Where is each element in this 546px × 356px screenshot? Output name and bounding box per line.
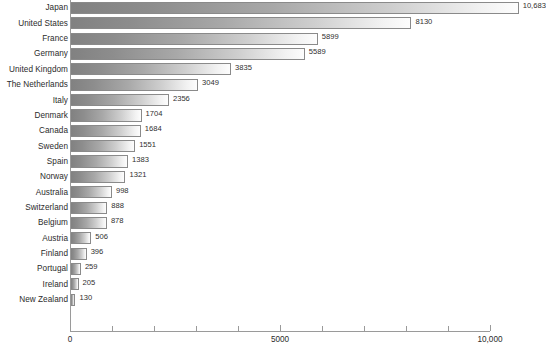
bar-value-label: 259 (81, 261, 98, 273)
bar-row: Sweden1551 (0, 139, 505, 154)
bar-value-label: 3049 (198, 77, 219, 89)
bar[interactable] (70, 186, 112, 198)
bar-value-label: 1704 (142, 108, 163, 120)
bar-value-label: 396 (87, 246, 104, 258)
bar-value-label: 5899 (318, 31, 339, 43)
bar[interactable] (70, 33, 318, 45)
bar-row: Japan10,683 (0, 0, 505, 15)
bar-row: United Kingdom3835 (0, 62, 505, 77)
category-label: Germany (34, 46, 68, 61)
category-label: Switzerland (25, 200, 68, 215)
bar-value-label: 506 (91, 231, 108, 243)
bar-wrapper (70, 202, 107, 214)
category-label: Australia (36, 185, 68, 200)
x-axis-minor-tick (406, 326, 407, 331)
bar[interactable] (70, 94, 169, 106)
bar-wrapper (70, 171, 125, 183)
bar-wrapper (70, 63, 231, 75)
category-label: Spain (47, 154, 68, 169)
x-axis-major-tick (70, 325, 71, 331)
bar[interactable] (70, 278, 79, 290)
bar-wrapper (70, 217, 107, 229)
category-label: France (42, 31, 68, 46)
bar-row: Portugal259 (0, 261, 505, 276)
bar-value-label: 888 (107, 200, 124, 212)
bar-wrapper (70, 278, 79, 290)
bar-wrapper (70, 232, 91, 244)
bar[interactable] (70, 248, 87, 260)
bar-row: Belgium878 (0, 215, 505, 230)
bar-wrapper (70, 33, 318, 45)
category-label: Austria (42, 231, 68, 246)
x-axis-major-tick (490, 325, 491, 331)
category-label: Norway (40, 169, 68, 184)
x-axis-tick-label: 0 (68, 335, 73, 344)
x-axis-line (70, 331, 490, 332)
bar[interactable] (70, 109, 142, 121)
bar-value-label: 1684 (141, 123, 162, 135)
bar-value-label: 205 (79, 277, 96, 289)
x-axis-minor-tick (364, 326, 365, 331)
bar-row: Switzerland888 (0, 200, 505, 215)
bar-row: Germany5589 (0, 46, 505, 61)
category-label: Italy (53, 93, 68, 108)
bar-row: Canada1684 (0, 123, 505, 138)
x-axis-minor-tick (322, 326, 323, 331)
bar[interactable] (70, 140, 135, 152)
bar-value-label: 3835 (231, 62, 252, 74)
bar-value-label: 878 (107, 215, 124, 227)
bar-row: Finland396 (0, 246, 505, 261)
bar[interactable] (70, 155, 128, 167)
bar-row: Austria506 (0, 231, 505, 246)
bar[interactable] (70, 2, 519, 14)
bar[interactable] (70, 202, 107, 214)
bar-row: Norway1321 (0, 169, 505, 184)
x-axis-tick-label: 10,000 (477, 335, 502, 344)
bar-value-label: 998 (112, 185, 129, 197)
category-label: Denmark (34, 108, 68, 123)
bar-value-label: 1321 (125, 169, 146, 181)
bar-row: The Netherlands3049 (0, 77, 505, 92)
bar-row: Ireland205 (0, 277, 505, 292)
bar-wrapper (70, 2, 519, 14)
bar-wrapper (70, 109, 142, 121)
category-label: The Netherlands (7, 77, 68, 92)
x-axis-major-tick (280, 325, 281, 331)
bar-wrapper (70, 140, 135, 152)
bar[interactable] (70, 125, 141, 137)
bar-value-label: 2356 (169, 93, 190, 105)
bar-wrapper (70, 263, 81, 275)
bar[interactable] (70, 48, 305, 60)
category-label: United Kingdom (9, 62, 68, 77)
bar-value-label: 1383 (128, 154, 149, 166)
category-label: Japan (45, 0, 68, 15)
bar[interactable] (70, 79, 198, 91)
category-label: New Zealand (19, 292, 68, 307)
bar-wrapper (70, 79, 198, 91)
bar-wrapper (70, 48, 305, 60)
x-axis-minor-tick (154, 326, 155, 331)
bar-wrapper (70, 155, 128, 167)
y-axis-line (70, 0, 71, 331)
bar[interactable] (70, 171, 125, 183)
bar[interactable] (70, 63, 231, 75)
bar-row: Spain1383 (0, 154, 505, 169)
bar[interactable] (70, 232, 91, 244)
bar-row: France5899 (0, 31, 505, 46)
x-axis-minor-tick (448, 326, 449, 331)
bar-row: Denmark1704 (0, 108, 505, 123)
x-axis-minor-tick (238, 326, 239, 331)
bar-value-label: 10,683 (519, 0, 546, 12)
category-label: Ireland (43, 277, 68, 292)
x-axis-tick-label: 5000 (271, 335, 289, 344)
bar-wrapper (70, 94, 169, 106)
bar-row: New Zealand130 (0, 292, 505, 307)
bar[interactable] (70, 17, 411, 29)
bar-wrapper (70, 17, 411, 29)
bar[interactable] (70, 217, 107, 229)
bar-value-label: 8130 (411, 16, 432, 28)
bar-row: United States8130 (0, 16, 505, 31)
category-label: United States (18, 16, 68, 31)
category-label: Portugal (37, 261, 68, 276)
bar[interactable] (70, 263, 81, 275)
